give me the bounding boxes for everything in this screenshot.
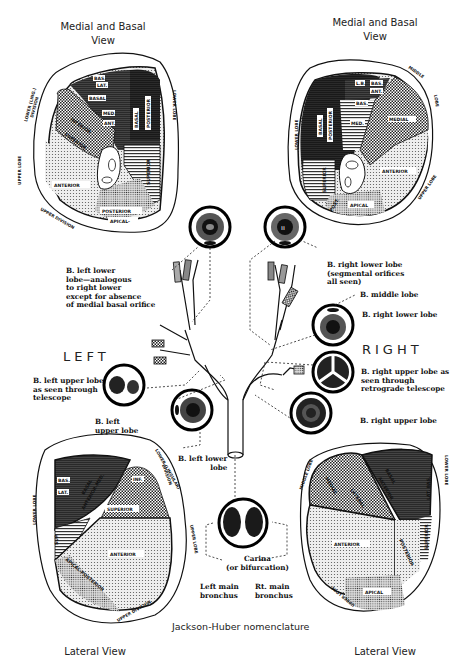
svg-text:LOWER LOBE: LOWER LOBE: [294, 119, 299, 150]
svg-text:APICAL: APICAL: [365, 590, 383, 595]
scope-view-left-upper: [172, 390, 212, 430]
svg-text:SUPERIOR: SUPERIOR: [107, 507, 133, 512]
svg-text:ANTERIOR: ANTERIOR: [334, 542, 360, 547]
svg-text:SUPERIOR: SUPERIOR: [424, 524, 429, 550]
caption-line: upper lobe: [95, 427, 138, 436]
svg-text:ANT.: ANT.: [104, 121, 116, 126]
svg-text:UPPER DIVISION: UPPER DIVISION: [40, 207, 76, 231]
scope-view-left-upper-telescope: [104, 365, 144, 405]
svg-text:BAS.: BAS.: [94, 76, 106, 81]
scope-view-carina: [219, 499, 267, 547]
svg-text:APICAL: APICAL: [350, 203, 368, 208]
bronchial-tips: [152, 260, 304, 374]
title-top-left: Medial and Basal View: [48, 20, 158, 48]
title-top-left-line1: Medial and Basal: [48, 20, 158, 34]
svg-text:BASAL: BASAL: [89, 96, 106, 101]
svg-text:POSTERIOR: POSTERIOR: [146, 99, 151, 128]
svg-text:ıı: ıı: [281, 224, 285, 232]
caption-line: (or bifurcation): [226, 564, 289, 573]
lung-bottom-right: [301, 443, 440, 611]
caption-right-main-bronchus: Rt. main bronchus: [255, 583, 293, 600]
caption-middle-lobe: B. middle lobe: [360, 291, 418, 300]
nomenclature-label: Jackson-Huber nomenclature: [172, 622, 309, 632]
svg-text:BASAL: BASAL: [318, 118, 323, 135]
caption-line: all seen): [327, 278, 404, 287]
svg-text:ANT.: ANT.: [371, 89, 383, 94]
caption-left-lower-lobe: B. left lower lobe—analogous to right lo…: [66, 267, 155, 310]
title-top-right-line2: View: [320, 30, 430, 44]
caption-line: bronchus: [200, 592, 239, 601]
title-top-left-line2: View: [48, 34, 158, 48]
svg-text:BAS.: BAS.: [58, 478, 70, 483]
scope-view-right-lower: [313, 305, 353, 345]
caption-line: retrograde telescope: [361, 385, 449, 394]
side-label-right: RIGHT: [362, 343, 423, 356]
svg-text:MEDIAL: MEDIAL: [389, 117, 408, 122]
caption-right-lower-lobe: B. right lower lobe: [362, 311, 437, 320]
caption-left-upper-lobe: B. left upper lobe: [95, 418, 138, 435]
svg-text:UPPER LOBE: UPPER LOBE: [17, 156, 22, 185]
caption-line: lobe: [178, 464, 227, 473]
title-top-right-line1: Medial and Basal: [320, 16, 430, 30]
svg-text:UPPER LOBE: UPPER LOBE: [417, 174, 438, 201]
svg-text:SUPERIOR: SUPERIOR: [322, 167, 327, 193]
svg-text:UPPER LOBE: UPPER LOBE: [189, 524, 199, 554]
svg-text:LAT.: LAT.: [97, 83, 107, 88]
svg-text:SUPERIOR: SUPERIOR: [146, 159, 151, 185]
svg-text:LAT. BAS.: LAT. BAS.: [426, 476, 431, 500]
svg-text:SUP.: SUP.: [54, 534, 59, 545]
caption-right-lower-lobe-all: B. right lower lobe (segmental orifices …: [327, 261, 404, 287]
scope-view-right-lower-top: ıı: [265, 207, 305, 247]
caption-left-upper-telescope: B. left upper lobe as seen through teles…: [33, 377, 104, 403]
svg-text:POSTERIOR: POSTERIOR: [328, 111, 333, 140]
svg-text:POSTERIOR: POSTERIOR: [102, 209, 131, 214]
svg-text:ANTERIOR: ANTERIOR: [382, 169, 408, 174]
caption-left-main-bronchus: Left main bronchus: [200, 583, 239, 600]
caption-line: bronchus: [255, 592, 293, 601]
title-bottom-left: Lateral View: [40, 645, 150, 659]
caption-line: telescope: [33, 394, 104, 403]
scope-view-right-upper-retrograde: [313, 352, 353, 392]
svg-text:LOWER LOBE: LOWER LOBE: [444, 455, 449, 486]
svg-text:L.B.: L.B.: [356, 81, 366, 86]
svg-text:BAS.: BAS.: [356, 101, 368, 106]
caption-right-upper-retrograde: B. right upper lobe as seen through retr…: [361, 368, 449, 394]
svg-text:INF.: INF.: [133, 477, 143, 482]
svg-text:ANTERIOR: ANTERIOR: [110, 552, 136, 557]
svg-text:LOWER LOBE: LOWER LOBE: [172, 90, 177, 121]
svg-text:APICAL-: APICAL-: [110, 219, 130, 224]
svg-text:MED.: MED.: [103, 111, 116, 116]
caption-line: of medial basal orifice: [66, 301, 155, 310]
svg-text:LAT.: LAT.: [58, 490, 68, 495]
caption-left-lower-lobe-small: B. left lower lobe: [178, 455, 227, 472]
svg-text:LOBE: LOBE: [433, 94, 440, 107]
svg-text:ANTERIOR: ANTERIOR: [54, 183, 80, 188]
side-label-left: LEFT: [63, 350, 110, 363]
caption-carina: Carina (or bifurcation): [226, 555, 289, 572]
lung-top-left: [34, 53, 179, 232]
svg-text:BAS.: BAS.: [371, 81, 383, 86]
title-top-right: Medial and Basal View: [320, 16, 430, 44]
diagram-canvas: BAS. LAT. BASAL MED. ANT. INFERIOR SUPER…: [0, 0, 470, 669]
svg-text:BASAL: BASAL: [134, 111, 139, 128]
caption-right-upper-lobe: B. right upper lobe: [360, 417, 437, 426]
svg-text:LOWER LOBE: LOWER LOBE: [32, 494, 37, 525]
scope-view-right-upper: [291, 393, 331, 433]
svg-text:MIDDLE: MIDDLE: [407, 65, 425, 80]
scope-view-left-lower: [190, 207, 230, 247]
title-bottom-right: Lateral View: [330, 645, 440, 659]
svg-text:MED.: MED.: [351, 121, 364, 126]
